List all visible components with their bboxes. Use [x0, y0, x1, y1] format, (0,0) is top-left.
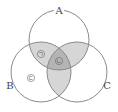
venn-diagram: A B C ㄱ ㄴ ㄷ: [0, 0, 118, 112]
label-c: C: [103, 80, 111, 91]
svg-text:ㄷ: ㄷ: [28, 74, 34, 81]
svg-text:ㄱ: ㄱ: [38, 50, 44, 57]
label-a: A: [54, 5, 63, 16]
mark-ab-only: ㄱ: [37, 50, 44, 57]
mark-abc: ㄴ: [55, 57, 62, 64]
mark-b-only: ㄷ: [27, 74, 34, 81]
label-b: B: [6, 80, 13, 91]
svg-text:ㄴ: ㄴ: [56, 57, 62, 64]
